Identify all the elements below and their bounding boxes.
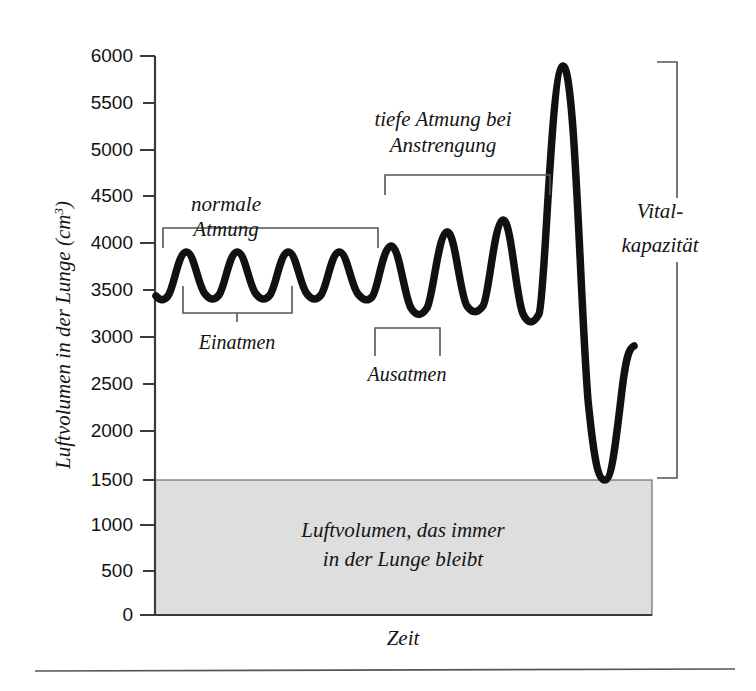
- normal-breathing-label-line2: Atmung: [191, 217, 258, 241]
- vital-capacity-label-line2: kapazität: [622, 233, 700, 257]
- deep-breathing-label-line2: Anstrengung: [388, 133, 497, 157]
- vital-capacity-label-line1: Vital-: [637, 199, 683, 223]
- y-tick-label-4500: 4500: [91, 185, 133, 206]
- y-tick-label-500: 500: [101, 560, 133, 581]
- exhale-bracket: [375, 328, 440, 356]
- x-axis-title: Zeit: [387, 626, 421, 650]
- y-tick-label-6000: 6000: [91, 45, 133, 66]
- deep-breathing-label-line1: tiefe Atmung bei: [374, 107, 511, 131]
- y-tick-label-0: 0: [122, 604, 133, 625]
- y-tick-label-5500: 5500: [91, 92, 133, 113]
- y-axis-title-text: Luftvolumen in der Lunge (cm: [51, 215, 75, 470]
- normal-breathing-label-line1: normale: [191, 192, 261, 216]
- y-tick-label-1500: 1500: [91, 469, 133, 490]
- y-tick-label-2500: 2500: [91, 373, 133, 394]
- y-axis-ticks: [140, 56, 155, 615]
- lung-volume-figure: 6000 5500 5000 4500 4000 3500 3000 2500 …: [0, 0, 756, 691]
- y-axis-title: Luftvolumen in der Lunge (cm3): [51, 201, 75, 470]
- exhale-label: Ausatmen: [366, 363, 447, 385]
- residual-volume-label-line2: in der Lunge bleibt: [323, 547, 485, 571]
- y-tick-label-1000: 1000: [91, 514, 133, 535]
- y-tick-label-2000: 2000: [91, 420, 133, 441]
- svg-text:Luftvolumen in der Lunge (cm3): Luftvolumen in der Lunge (cm3): [51, 201, 75, 470]
- bottom-rule: [35, 669, 735, 671]
- vital-capacity-bracket: [657, 62, 677, 478]
- y-tick-label-3000: 3000: [91, 326, 133, 347]
- y-tick-label-4000: 4000: [91, 232, 133, 253]
- inhale-label: Einatmen: [198, 331, 276, 353]
- y-tick-label-3500: 3500: [91, 279, 133, 300]
- y-axis-title-paren: ): [51, 201, 75, 209]
- residual-volume-label-line1: Luftvolumen, das immer: [300, 518, 505, 542]
- y-tick-label-5000: 5000: [91, 139, 133, 160]
- deep-breathing-bracket: [385, 175, 550, 195]
